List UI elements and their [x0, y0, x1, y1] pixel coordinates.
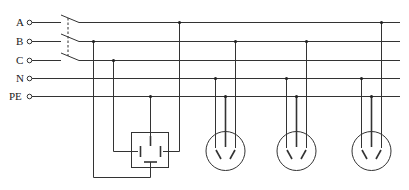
label-n: N	[16, 72, 24, 84]
label-c: C	[16, 54, 23, 66]
terminal-icon-pe	[27, 94, 32, 99]
terminal-circles	[27, 20, 32, 99]
terminal-icon-a	[27, 20, 32, 25]
three-pole-switch-icon	[32, 15, 79, 61]
label-b: B	[16, 35, 23, 47]
junction-dots	[92, 21, 383, 98]
three-phase-socket	[94, 23, 180, 178]
terminal-icon-c	[27, 58, 32, 63]
terminal-icon-n	[27, 76, 32, 81]
line-labels: A B C N PE	[9, 16, 24, 102]
label-a: A	[16, 16, 24, 28]
terminal-icon-b	[27, 39, 32, 44]
wiring-diagram: A B C N PE	[0, 0, 409, 190]
label-pe: PE	[9, 90, 22, 102]
